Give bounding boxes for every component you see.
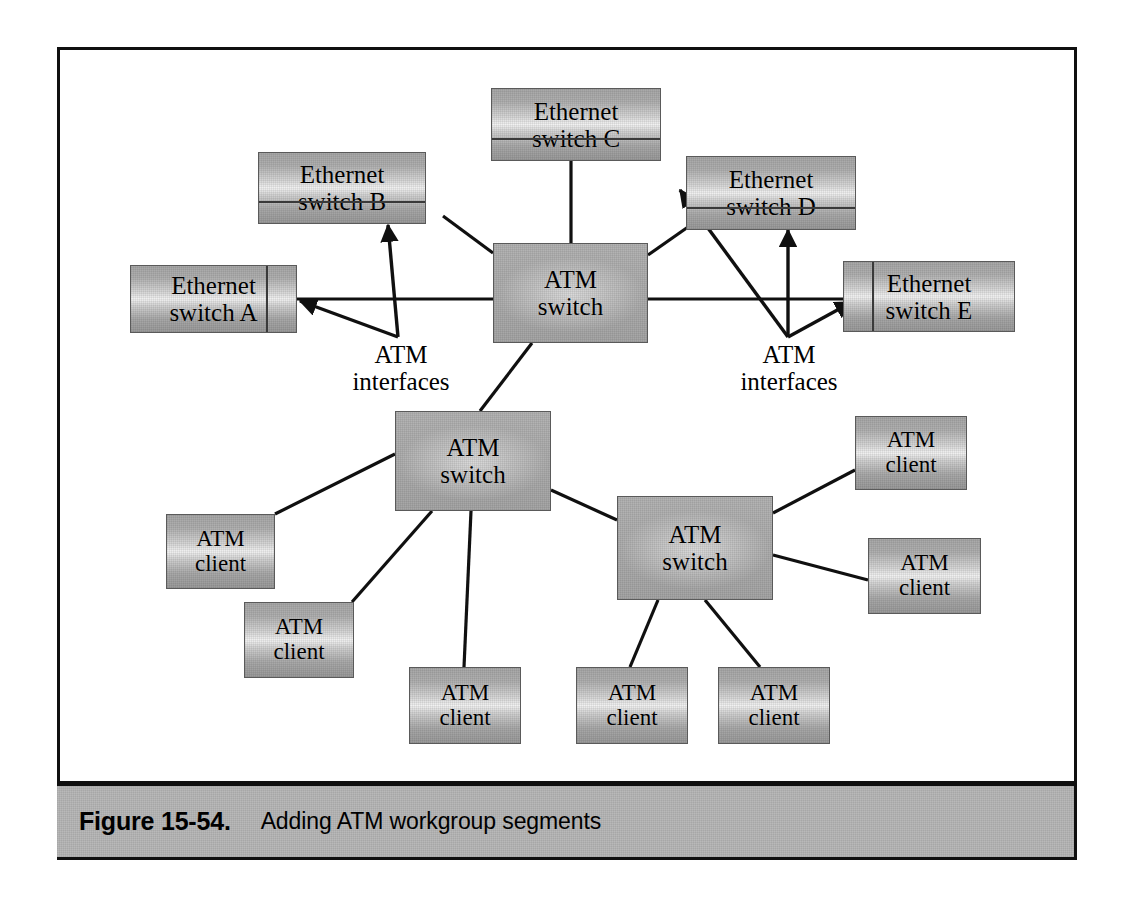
- link-core-to-switch-b: [443, 216, 493, 253]
- node-atm-client-4[interactable]: ATM client: [855, 416, 967, 490]
- node-label: ATM client: [899, 551, 950, 601]
- node-label: Ethernet switch B: [298, 161, 386, 215]
- node-ethernet-switch-d[interactable]: Ethernet switch D: [686, 156, 856, 230]
- link-atm-left-to-client-2: [352, 511, 432, 602]
- node-label: Ethernet switch A: [169, 272, 257, 326]
- annotation-atm-interfaces-left: ATM interfaces: [336, 342, 466, 395]
- node-label: ATM client: [748, 681, 799, 731]
- node-ethernet-switch-c[interactable]: Ethernet switch C: [491, 88, 661, 161]
- node-ethernet-switch-e[interactable]: Ethernet switch E: [843, 261, 1015, 332]
- link-core-to-atm-switch-left: [480, 343, 532, 411]
- node-atm-client-1[interactable]: ATM client: [166, 514, 275, 589]
- network-diagram: Ethernet switch A Ethernet switch B Ethe…: [60, 50, 1074, 857]
- link-atm-right-to-client-5: [773, 555, 868, 580]
- node-atm-switch-right[interactable]: ATM switch: [617, 496, 773, 600]
- node-atm-client-5[interactable]: ATM client: [868, 538, 981, 614]
- node-atm-client-7[interactable]: ATM client: [718, 667, 830, 744]
- link-atm-right-to-client-4: [773, 470, 855, 513]
- figure-frame: Ethernet switch A Ethernet switch B Ethe…: [57, 47, 1077, 860]
- arrow-left-to-switch-b: [388, 225, 398, 337]
- link-atm-left-to-client-1: [275, 454, 395, 514]
- node-label: ATM client: [606, 681, 657, 731]
- figure-number: Figure 15-54.: [79, 807, 231, 836]
- node-label: Ethernet switch D: [726, 166, 816, 220]
- atm-interface-tick-e: [872, 262, 874, 331]
- node-label: Ethernet switch C: [532, 98, 620, 152]
- atm-interface-tick-d: [687, 207, 855, 209]
- node-atm-switch-left[interactable]: ATM switch: [395, 411, 551, 511]
- node-label: ATM switch: [662, 521, 727, 575]
- figure-title: Adding ATM workgroup segments: [261, 808, 602, 835]
- link-atm-right-to-client-6: [630, 600, 658, 667]
- node-ethernet-switch-a[interactable]: Ethernet switch A: [130, 265, 297, 333]
- annotation-atm-interfaces-right: ATM interfaces: [724, 342, 854, 395]
- node-label: ATM switch: [440, 434, 505, 488]
- node-atm-client-3[interactable]: ATM client: [409, 667, 521, 744]
- link-atm-right-to-client-7: [705, 600, 760, 667]
- node-atm-switch-core[interactable]: ATM switch: [493, 243, 648, 343]
- node-label: ATM switch: [538, 266, 603, 320]
- node-label: ATM client: [885, 428, 936, 478]
- node-ethernet-switch-b[interactable]: Ethernet switch B: [258, 152, 426, 224]
- atm-interface-tick-b: [259, 201, 425, 203]
- link-atm-left-to-client-3: [464, 511, 471, 667]
- atm-interface-tick-c: [492, 138, 660, 140]
- figure-caption-bar: Figure 15-54. Adding ATM workgroup segme…: [57, 781, 1077, 860]
- arrow-left-to-switch-a: [300, 301, 398, 337]
- node-label: Ethernet switch E: [886, 270, 973, 324]
- node-label: ATM client: [195, 527, 246, 577]
- figure-page: Ethernet switch A Ethernet switch B Ethe…: [0, 0, 1141, 906]
- node-label: ATM client: [273, 615, 324, 665]
- atm-interface-tick-a: [266, 266, 268, 332]
- node-label: ATM client: [439, 681, 490, 731]
- node-atm-client-6[interactable]: ATM client: [576, 667, 688, 744]
- node-atm-client-2[interactable]: ATM client: [244, 602, 354, 678]
- link-atm-left-to-atm-right: [551, 490, 617, 520]
